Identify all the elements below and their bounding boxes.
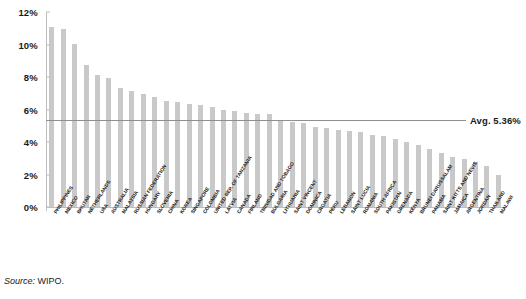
x-axis-tick-mark	[46, 207, 47, 211]
bar[interactable]	[72, 44, 77, 207]
y-axis-tick-mark	[46, 44, 50, 45]
bar-slot[interactable]	[424, 12, 435, 207]
bar-slot[interactable]	[481, 12, 492, 207]
bar-slot[interactable]	[183, 12, 194, 207]
y-axis-tick-mark	[46, 142, 50, 143]
bar-slot[interactable]	[321, 12, 332, 207]
y-axis-tick-mark	[46, 77, 50, 78]
bar-slot[interactable]	[287, 12, 298, 207]
bar-slot[interactable]	[401, 12, 412, 207]
bar[interactable]	[84, 65, 89, 207]
bar-slot[interactable]	[378, 12, 389, 207]
bar-slot[interactable]	[103, 12, 114, 207]
bar-slot[interactable]	[57, 12, 68, 207]
bar[interactable]	[61, 29, 66, 207]
chart-container: 0%2%4%6%8%10%12% Avg. 5.36% PHILIPPINESM…	[0, 0, 526, 299]
y-axis-tick-label: 4%	[24, 137, 38, 148]
average-line	[46, 120, 466, 121]
y-axis-tick-label: 10%	[18, 39, 38, 50]
bar-slot[interactable]	[80, 12, 91, 207]
source-value: WIPO.	[38, 276, 65, 286]
bar-slot[interactable]	[241, 12, 252, 207]
plot-area	[46, 12, 504, 207]
source-note: Source: WIPO.	[4, 276, 64, 286]
bar-slot[interactable]	[447, 12, 458, 207]
bar-slot[interactable]	[493, 12, 504, 207]
y-axis-tick-label: 2%	[24, 169, 38, 180]
bar-slot[interactable]	[298, 12, 309, 207]
y-axis-tick-label: 8%	[24, 72, 38, 83]
y-axis-tick-mark	[46, 207, 50, 208]
bar-slot[interactable]	[332, 12, 343, 207]
bar[interactable]	[232, 111, 237, 207]
y-axis-tick-label: 0%	[24, 202, 38, 213]
y-axis-tick-mark	[46, 12, 50, 13]
y-axis-tick-label: 12%	[18, 7, 38, 18]
bar-slot[interactable]	[344, 12, 355, 207]
bar-slot[interactable]	[195, 12, 206, 207]
bar-slot[interactable]	[138, 12, 149, 207]
bar[interactable]	[49, 27, 54, 207]
bar-slot[interactable]	[367, 12, 378, 207]
bar-slot[interactable]	[264, 12, 275, 207]
source-prefix: Source:	[4, 276, 35, 286]
average-line-label: Avg. 5.36%	[470, 114, 521, 125]
x-axis-labels: PHILIPPINESMEXICOBHUTANNETHERLANDSUSAAUS…	[46, 212, 504, 274]
bar[interactable]	[95, 75, 100, 207]
bar-slot[interactable]	[470, 12, 481, 207]
bar-slot[interactable]	[69, 12, 80, 207]
bar-slot[interactable]	[92, 12, 103, 207]
bar-slot[interactable]	[355, 12, 366, 207]
y-axis-tick-mark	[46, 174, 50, 175]
bar-slot[interactable]	[126, 12, 137, 207]
bar-slot[interactable]	[172, 12, 183, 207]
bar-slot[interactable]	[390, 12, 401, 207]
bar-slot[interactable]	[161, 12, 172, 207]
y-axis-tick-mark	[46, 109, 50, 110]
bar[interactable]	[336, 130, 341, 207]
bar-series	[46, 12, 504, 207]
bar-slot[interactable]	[206, 12, 217, 207]
bar-slot[interactable]	[218, 12, 229, 207]
y-axis-tick-label: 6%	[24, 104, 38, 115]
y-axis: 0%2%4%6%8%10%12%	[0, 0, 46, 299]
bar[interactable]	[175, 102, 180, 207]
bar-slot[interactable]	[252, 12, 263, 207]
bar-slot[interactable]	[115, 12, 126, 207]
bar-slot[interactable]	[309, 12, 320, 207]
bar-slot[interactable]	[413, 12, 424, 207]
